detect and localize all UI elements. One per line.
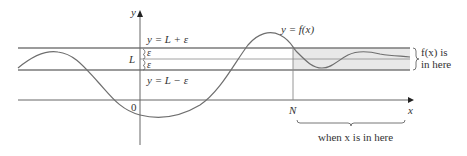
function-curve [18,33,410,118]
limit-L-label: L [128,53,135,65]
x-axis-arrow-icon [408,97,414,103]
bottom-brace-icon [297,120,405,126]
y-axis-label: y [130,6,136,18]
epsilon-brace-upper-icon [143,49,145,59]
upper-bound-label: y = L + ε [146,33,189,45]
epsilon-lower-label: ε [147,59,151,70]
limit-diagram: y x 0 y = L + ε L ε ε y = L − ε y = f(x)… [0,0,467,156]
right-brace-label-line2: in here [421,58,451,70]
lower-bound-label: y = L − ε [146,74,189,86]
x-axis-label: x [407,104,413,116]
curve-label: y = f(x) [280,23,314,36]
right-brace-icon [413,48,419,70]
bottom-brace-label: when x is in here [318,131,393,143]
n-label: N [288,104,297,116]
origin-label: 0 [131,101,137,113]
epsilon-upper-label: ε [147,47,151,58]
epsilon-brace-lower-icon [143,60,145,70]
y-axis-arrow-icon [137,10,143,17]
